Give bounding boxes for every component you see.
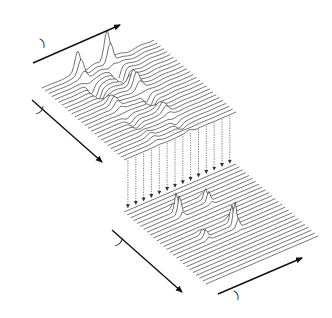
time-domain-surface: [42, 30, 236, 166]
fourier-2d-diagram: ) ) ) ): [0, 0, 332, 318]
frequency-f1-axis-label: ): [115, 236, 126, 247]
frequency-domain-surface: [124, 164, 318, 290]
frequency-f2-axis-label: ): [38, 36, 46, 48]
frequency-f2-bottom-axis-label: ): [232, 288, 240, 300]
